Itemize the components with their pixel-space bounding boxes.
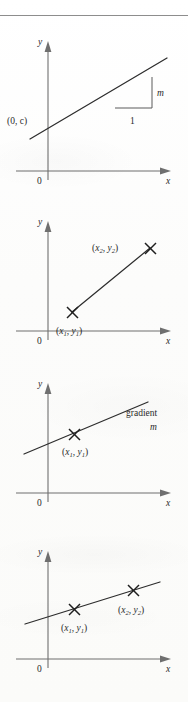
point-1-label: (x1, y1) <box>62 447 88 458</box>
x-axis-label: x <box>165 336 171 346</box>
figure-1-canvas: y x 0 (0, c) m 1 <box>0 28 188 188</box>
line-segment <box>72 248 150 312</box>
x-axis-label: x <box>165 498 171 508</box>
x-axis-arrowhead <box>160 168 171 175</box>
y-intercept-label: (0, c) <box>7 116 27 127</box>
x-axis-arrowhead <box>160 490 171 497</box>
y-axis-label: y <box>37 379 43 389</box>
figure-two-points: y x 0 (x2, y2) (x1, y1) <box>0 208 188 368</box>
line-graph <box>30 58 167 139</box>
gradient-symbol-label: m <box>150 422 157 432</box>
x-axis-label: x <box>165 664 171 674</box>
y-axis-label: y <box>37 217 43 227</box>
y-axis-arrowhead <box>45 551 52 562</box>
figure-2-canvas: y x 0 (x2, y2) (x1, y1) <box>0 208 188 368</box>
scanned-page: y x 0 (0, c) m 1 <box>0 0 188 702</box>
point-marker-2 <box>128 585 139 596</box>
figure-intercept-gradient: y x 0 (0, c) m 1 <box>0 28 188 188</box>
figure-line-through-two-points: y x 0 (x1, y1) (x2, y2) <box>0 538 188 702</box>
figure-3-canvas: y x 0 gradient m (x1, y1) <box>0 370 188 530</box>
point-1-label: (x1, y1) <box>61 623 87 634</box>
x-axis-arrowhead <box>160 656 171 663</box>
gradient-rise-label: m <box>157 88 164 98</box>
origin-label: 0 <box>37 498 42 508</box>
page-top-rule <box>0 15 188 16</box>
x-axis-label: x <box>165 176 171 186</box>
origin-label: 0 <box>37 664 42 674</box>
point-2-label: (x2, y2) <box>118 605 144 616</box>
point-1-label: (x1, y1) <box>56 326 82 337</box>
gradient-run-label: 1 <box>130 116 135 126</box>
point-marker-2 <box>145 243 156 254</box>
figure-4-canvas: y x 0 (x1, y1) (x2, y2) <box>0 538 188 702</box>
y-axis-arrowhead <box>45 221 52 232</box>
point-2-label: (x2, y2) <box>92 243 118 254</box>
y-axis-arrowhead <box>45 41 52 52</box>
origin-label: 0 <box>37 336 42 346</box>
gradient-word-label: gradient <box>126 408 157 418</box>
point-marker-1 <box>67 307 78 318</box>
y-axis-label: y <box>37 37 43 47</box>
line-graph <box>25 582 160 624</box>
x-axis-arrowhead <box>160 328 171 335</box>
y-axis-label: y <box>37 547 43 557</box>
origin-label: 0 <box>37 176 42 186</box>
figure-gradient-through-point: y x 0 gradient m (x1, y1) <box>0 370 188 530</box>
y-axis-arrowhead <box>45 383 52 394</box>
